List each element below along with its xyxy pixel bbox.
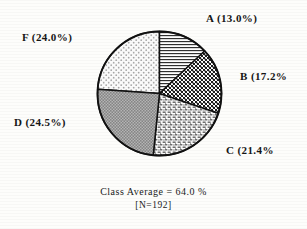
pie-label-c: C (21.4% <box>226 144 274 156</box>
pie-chart-graphic <box>95 29 224 158</box>
pie-svg <box>95 29 224 158</box>
pie-label-a: A (13.0%) <box>206 12 257 24</box>
caption-sample-size: [N=192] <box>0 200 307 210</box>
pie-label-d: D (24.5%) <box>14 116 66 128</box>
pie-label-b: B (17.2% <box>240 70 287 82</box>
pie-slice-d <box>97 89 159 155</box>
caption-class-average: Class Average = 64.0 % <box>0 186 307 197</box>
chart-caption: Class Average = 64.0 % [N=192] <box>0 186 307 210</box>
pie-chart-figure: A (13.0%) B (17.2% C (21.4% D (24.5%) F … <box>0 0 307 229</box>
pie-label-f: F (24.0%) <box>22 31 72 43</box>
